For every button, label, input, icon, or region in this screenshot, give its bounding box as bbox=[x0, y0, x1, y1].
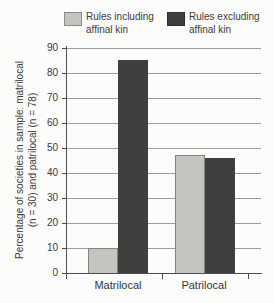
gridline-50 bbox=[66, 148, 261, 149]
legend-label-excluding: Rules excluding affinal kin bbox=[189, 11, 260, 36]
legend-swatch-including bbox=[64, 12, 82, 26]
x-category-label-patrilocal: Patrilocal bbox=[181, 279, 226, 291]
bar-patrilocal-including-affinal-kin bbox=[175, 155, 205, 273]
bar-matrilocal-including-affinal-kin bbox=[88, 248, 118, 273]
y-tick-mark-40 bbox=[62, 173, 66, 174]
x-tick-mark-0 bbox=[66, 274, 67, 279]
y-tick-mark-60 bbox=[62, 123, 66, 124]
plot-area bbox=[66, 48, 261, 273]
legend-item-excluding: Rules excluding affinal kin bbox=[167, 11, 260, 36]
y-tick-mark-30 bbox=[62, 198, 66, 199]
x-category-label-matrilocal: Matrilocal bbox=[94, 279, 141, 291]
gridline-90 bbox=[66, 48, 261, 49]
y-tick-mark-10 bbox=[62, 248, 66, 249]
y-tick-label-0: 0 bbox=[34, 267, 58, 279]
y-tick-mark-90 bbox=[62, 48, 66, 49]
x-tick-mark-2 bbox=[248, 274, 249, 279]
bar-chart-figure: Rules including affinal kin Rules exclud… bbox=[0, 0, 274, 303]
y-tick-mark-20 bbox=[62, 223, 66, 224]
y-tick-label-80: 80 bbox=[34, 67, 58, 79]
gridline-70 bbox=[66, 98, 261, 99]
y-axis-line bbox=[66, 46, 67, 279]
y-tick-label-20: 20 bbox=[34, 217, 58, 229]
gridline-60 bbox=[66, 123, 261, 124]
y-tick-label-90: 90 bbox=[34, 42, 58, 54]
x-tick-mark-1 bbox=[162, 274, 163, 279]
bar-patrilocal-excluding-affinal-kin bbox=[205, 158, 235, 273]
y-tick-label-50: 50 bbox=[34, 142, 58, 154]
x-axis-line bbox=[66, 273, 262, 274]
y-axis-title: Percentage of societies in sample: matri… bbox=[13, 45, 39, 275]
y-axis-title-line1: Percentage of societies in sample: matri… bbox=[13, 45, 26, 275]
y-tick-mark-80 bbox=[62, 73, 66, 74]
y-tick-label-60: 60 bbox=[34, 117, 58, 129]
y-tick-mark-50 bbox=[62, 148, 66, 149]
bar-matrilocal-excluding-affinal-kin bbox=[118, 60, 148, 273]
gridline-80 bbox=[66, 73, 261, 74]
y-tick-label-10: 10 bbox=[34, 242, 58, 254]
legend-item-including: Rules including affinal kin bbox=[64, 11, 154, 36]
legend-swatch-excluding bbox=[167, 12, 185, 26]
y-tick-label-30: 30 bbox=[34, 192, 58, 204]
y-tick-mark-70 bbox=[62, 98, 66, 99]
legend-label-including: Rules including affinal kin bbox=[86, 11, 154, 36]
y-axis-title-line2: (n = 30) and patrilocal (n = 78) bbox=[26, 45, 39, 275]
y-tick-label-40: 40 bbox=[34, 167, 58, 179]
y-tick-label-70: 70 bbox=[34, 92, 58, 104]
